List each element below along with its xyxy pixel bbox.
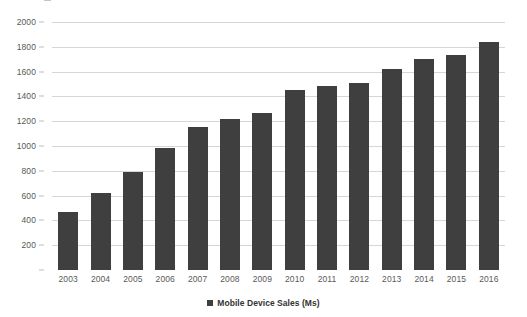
y-axis-tick-label: 400: [22, 215, 36, 225]
y-axis-tick-label: 2000: [17, 17, 36, 27]
bars-layer: [52, 22, 505, 270]
bar: [317, 86, 337, 270]
x-axis-tick-label: 2007: [188, 274, 207, 284]
bar: [220, 119, 240, 270]
y-axis-tick-label: 1600: [17, 67, 36, 77]
bar: [188, 127, 208, 270]
x-axis-tick-label: 2015: [447, 274, 466, 284]
x-axis-tick-label: 2006: [156, 274, 175, 284]
x-axis-tick-label: 2003: [59, 274, 78, 284]
bar: [414, 59, 434, 270]
bar: [252, 113, 272, 270]
bar: [91, 193, 111, 271]
y-axis-tick-mark: [39, 195, 44, 196]
x-axis: 2003200420052006200720082009201020112012…: [52, 274, 505, 288]
square-marker-icon: [207, 300, 213, 306]
bar: [285, 90, 305, 270]
y-axis-tick-mark: [39, 245, 44, 246]
y-axis-tick-mark: [39, 146, 44, 147]
y-axis-tick-label: 1200: [17, 116, 36, 126]
chart-legend: Mobile Device Sales (Ms): [0, 298, 527, 308]
y-axis-tick-label: 1000: [17, 141, 36, 151]
y-axis-tick-mark: [39, 96, 44, 97]
y-axis-tick-label: 800: [22, 166, 36, 176]
y-axis-tick-label: 200: [22, 240, 36, 250]
x-axis-tick-label: 2010: [285, 274, 304, 284]
x-axis-tick-label: 2016: [479, 274, 498, 284]
bar: [446, 55, 466, 270]
x-axis-tick-label: 2005: [123, 274, 142, 284]
y-axis-tick-mark: [39, 46, 44, 47]
x-axis-tick-label: 2009: [253, 274, 272, 284]
bar: [123, 172, 143, 270]
legend-label: Mobile Device Sales (Ms): [217, 298, 319, 308]
x-axis-tick-label: 2004: [91, 274, 110, 284]
y-axis-zero-dash: [44, 0, 51, 1]
y-axis-tick-label: 600: [22, 191, 36, 201]
y-axis-tick-mark: [39, 270, 44, 271]
y-axis-tick-label: 1400: [17, 91, 36, 101]
x-axis-tick-label: 2011: [318, 274, 337, 284]
x-axis-tick-label: 2013: [382, 274, 401, 284]
x-axis-tick-label: 2008: [220, 274, 239, 284]
x-axis-tick-label: 2014: [414, 274, 433, 284]
bar: [58, 212, 78, 270]
y-axis-tick-mark: [39, 220, 44, 221]
bar-chart: 200400600800100012001400160018002000 200…: [0, 0, 527, 317]
bar: [382, 69, 402, 271]
y-axis-tick-mark: [39, 22, 44, 23]
bar: [479, 42, 499, 270]
y-axis-tick-label: 1800: [17, 42, 36, 52]
y-axis-tick-mark: [39, 71, 44, 72]
x-axis-tick-label: 2012: [350, 274, 369, 284]
y-axis: 200400600800100012001400160018002000: [0, 22, 44, 270]
bar: [155, 148, 175, 270]
plot-area: [52, 22, 505, 270]
bar: [349, 83, 369, 270]
y-axis-tick-mark: [39, 121, 44, 122]
y-axis-tick-mark: [39, 170, 44, 171]
